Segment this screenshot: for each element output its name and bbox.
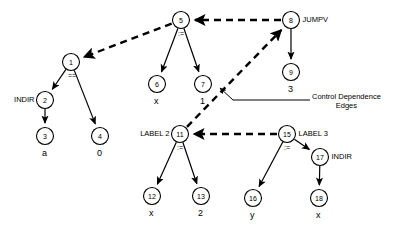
node-1[interactable]: 1 xyxy=(63,54,80,71)
dependence-graph: 12345678911121315161718 xyxy=(0,0,399,236)
node-value-label-13: 2 xyxy=(198,208,203,218)
node-number-1: 1 xyxy=(69,59,73,66)
node-side-label-15: LABEL 3 xyxy=(299,130,328,139)
node-7[interactable]: 7 xyxy=(195,76,212,93)
node-number-16: 16 xyxy=(249,195,257,202)
node-number-18: 18 xyxy=(315,195,323,202)
node-18[interactable]: 18 xyxy=(311,190,328,207)
node-9[interactable]: 9 xyxy=(283,64,300,81)
edge-n5-n6 xyxy=(162,28,178,71)
node-12[interactable]: 12 xyxy=(144,188,161,205)
node-side-label-11: LABEL 2 xyxy=(140,130,169,139)
node-number-6: 6 xyxy=(155,81,159,88)
edge-n15-n16 xyxy=(259,142,283,187)
node-operator-label-15: := xyxy=(284,144,290,152)
node-side-label-17: INDIR xyxy=(332,153,352,162)
control-dependence-annotation: Control Dependence Edges xyxy=(312,93,381,110)
node-17[interactable]: 17 xyxy=(312,149,329,166)
node-number-5: 5 xyxy=(179,17,183,24)
node-16[interactable]: 16 xyxy=(245,190,262,207)
node-side-label-8: JUMPV xyxy=(303,16,328,25)
node-operator-label-1: == xyxy=(68,72,76,80)
node-2[interactable]: 2 xyxy=(37,92,54,109)
edge-n5-n7 xyxy=(184,29,199,72)
node-6[interactable]: 6 xyxy=(149,76,166,93)
node-value-label-9: 3 xyxy=(288,84,293,94)
edge-n15-n17 xyxy=(294,139,309,149)
edge-n1-n2 xyxy=(52,69,66,89)
solid-edge-layer xyxy=(45,28,320,186)
node-13[interactable]: 13 xyxy=(193,188,210,205)
node-number-12: 12 xyxy=(148,193,156,200)
node-value-label-18: x xyxy=(316,210,321,220)
annotation-line-2: Edges xyxy=(312,102,381,111)
node-number-8: 8 xyxy=(289,17,293,24)
node-side-label-2: INDIR xyxy=(14,96,34,105)
node-3[interactable]: 3 xyxy=(37,128,54,145)
edge-n11-n12 xyxy=(157,142,176,184)
control-dependence-edge-n5-n1 xyxy=(84,24,172,57)
edge-n11-n13 xyxy=(183,143,197,184)
node-number-7: 7 xyxy=(201,81,205,88)
node-15[interactable]: 15 xyxy=(279,126,296,143)
node-4[interactable]: 4 xyxy=(92,128,109,145)
node-value-label-4: 0 xyxy=(97,148,102,158)
node-number-2: 2 xyxy=(43,97,47,104)
node-8[interactable]: 8 xyxy=(283,12,300,29)
annotation-leader xyxy=(220,88,310,100)
node-value-label-7: 1 xyxy=(200,96,205,106)
node-value-label-6: x xyxy=(154,96,159,106)
node-number-15: 15 xyxy=(283,131,291,138)
diagram-canvas: 12345678911121315161718 ==INDIRa0:=x1JUM… xyxy=(0,0,399,236)
node-operator-label-5: := xyxy=(178,30,184,38)
node-number-9: 9 xyxy=(289,69,293,76)
node-number-3: 3 xyxy=(43,133,47,140)
node-number-11: 11 xyxy=(176,131,183,138)
node-value-label-16: y xyxy=(250,210,255,220)
node-value-label-3: a xyxy=(42,148,47,158)
node-number-17: 17 xyxy=(316,154,324,161)
node-11[interactable]: 11 xyxy=(172,126,189,143)
node-operator-label-11: := xyxy=(177,144,183,152)
node-layer: 12345678911121315161718 xyxy=(37,12,329,207)
edge-n1-n4 xyxy=(74,70,95,124)
node-number-13: 13 xyxy=(197,193,205,200)
node-5[interactable]: 5 xyxy=(173,12,190,29)
node-value-label-12: x xyxy=(149,208,154,218)
node-number-4: 4 xyxy=(98,133,102,140)
